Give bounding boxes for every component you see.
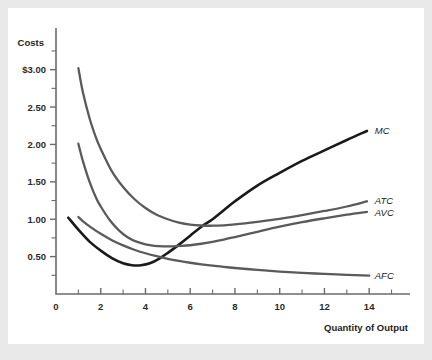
- curve-avc: [78, 144, 367, 247]
- axis-lines: [56, 28, 410, 294]
- y-tick-label: 1.50: [28, 176, 47, 187]
- curve-label-afc: AFC: [374, 270, 394, 281]
- curve-atc: [78, 68, 367, 226]
- x-tick-label: 12: [319, 301, 330, 312]
- x-tick-label: 10: [274, 301, 285, 312]
- x-tick-label: 14: [364, 301, 375, 312]
- x-tick-label: 4: [143, 301, 149, 312]
- y-tick-label: 2.50: [28, 102, 47, 113]
- curve-label-mc: MC: [375, 125, 390, 136]
- cost-curves-chart: 0.501.001.502.002.50$3.0002468101214Cost…: [0, 0, 432, 360]
- x-tick-label: 0: [53, 301, 58, 312]
- x-tick-label: 8: [232, 301, 237, 312]
- x-tick-label: 6: [188, 301, 193, 312]
- y-tick-label: 2.00: [28, 139, 47, 150]
- curve-label-atc: ATC: [374, 195, 393, 206]
- x-axis-title: Quantity of Output: [324, 322, 409, 333]
- chart-svg: 0.501.001.502.002.50$3.0002468101214Cost…: [0, 0, 432, 360]
- curve-label-avc: AVC: [374, 207, 394, 218]
- x-tick-label: 2: [98, 301, 103, 312]
- y-tick-label: $3.00: [22, 64, 46, 75]
- y-tick-label: 0.50: [28, 251, 47, 262]
- y-axis-title: Costs: [18, 37, 44, 48]
- y-tick-label: 1.00: [28, 214, 47, 225]
- curve-mc: [68, 131, 367, 265]
